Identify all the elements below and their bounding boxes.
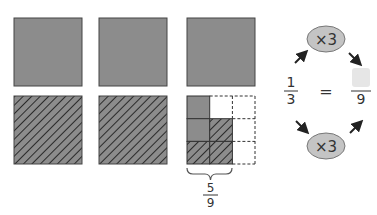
right-fraction: 9 <box>351 68 371 107</box>
equals-sign: = <box>319 82 332 101</box>
solid-square-3 <box>187 18 255 86</box>
left-fraction: 1 3 <box>284 74 298 107</box>
bottom-row: 5 9 <box>14 96 255 210</box>
brace-fraction: 5 9 <box>203 181 218 210</box>
fraction-diagram: 5 9 ×3 ×3 1 3 = 9 <box>0 0 377 215</box>
grid-cell-r0c0 <box>187 96 210 119</box>
grid-cell-r2c0 <box>187 141 210 164</box>
arrow-down-right-top-icon <box>349 53 358 62</box>
left-fraction-denominator: 3 <box>287 91 296 107</box>
hatched-square-1 <box>14 96 82 164</box>
grid-cell-r1c0 <box>187 119 210 142</box>
answer-blank-box[interactable] <box>352 68 370 87</box>
grid-cell-r1c1 <box>210 119 233 142</box>
arrow-down-right-bottom-icon <box>296 121 305 130</box>
arrow-up-right-bottom-icon <box>350 124 359 133</box>
hatched-square-2 <box>99 96 167 164</box>
bottom-multiplier-label: ×3 <box>315 138 337 156</box>
left-fraction-numerator: 1 <box>287 74 296 90</box>
solid-square-2 <box>99 18 167 86</box>
right-fraction-denominator: 9 <box>357 91 366 107</box>
solid-square-1 <box>14 18 82 86</box>
brace-fraction-numerator: 5 <box>207 181 215 195</box>
equation: ×3 ×3 1 3 = 9 <box>284 26 371 159</box>
arrow-up-right-top-icon <box>295 54 304 63</box>
top-row <box>14 18 255 86</box>
grid-cell-r2c1 <box>210 141 233 164</box>
ninths-grid <box>187 96 255 164</box>
brace-fraction-denominator: 9 <box>207 196 215 210</box>
brace <box>187 168 232 180</box>
top-multiplier-label: ×3 <box>315 31 337 49</box>
